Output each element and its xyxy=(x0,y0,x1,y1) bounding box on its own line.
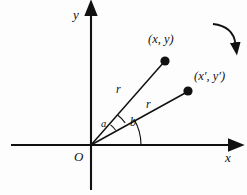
angle-a-arc-outer xyxy=(118,115,126,123)
point-xy-dot xyxy=(160,56,169,65)
angle-b-label: b xyxy=(130,116,136,128)
clockwise-rotation-arrow xyxy=(213,24,236,44)
angle-a-label: a xyxy=(101,119,106,130)
point-xpyp-label: (x′, y′) xyxy=(194,70,225,83)
diagram-svg xyxy=(0,0,247,195)
x-axis-label: x xyxy=(225,151,231,164)
radius-lower-label: r xyxy=(146,98,151,110)
radius-upper-label: r xyxy=(116,83,121,95)
origin-label: O xyxy=(74,150,83,163)
point-xy-label: (x, y) xyxy=(148,33,174,46)
y-axis-label: y xyxy=(73,8,79,21)
point-xpyp-dot xyxy=(183,86,192,95)
radius-upper-line xyxy=(91,62,164,145)
figure-canvas: y x O (x, y) (x′, y′) r r a b xyxy=(0,0,247,195)
angle-a-arc xyxy=(111,125,116,130)
